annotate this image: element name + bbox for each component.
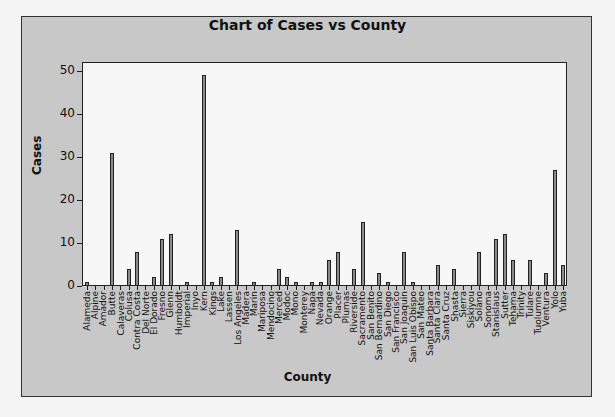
x-tick-mark bbox=[137, 286, 138, 290]
x-tick-mark bbox=[154, 286, 155, 290]
bar bbox=[336, 252, 340, 286]
bar bbox=[277, 269, 281, 286]
x-tick-mark bbox=[312, 286, 313, 290]
y-tick-label: 10 bbox=[45, 235, 75, 249]
y-tick-mark bbox=[77, 200, 82, 201]
x-axis-label: County bbox=[0, 370, 615, 384]
x-tick-mark bbox=[479, 286, 480, 290]
x-tick-mark bbox=[521, 286, 522, 290]
y-tick-label: 40 bbox=[45, 106, 75, 120]
x-tick-mark bbox=[254, 286, 255, 290]
bar bbox=[285, 277, 289, 286]
bar bbox=[235, 230, 239, 286]
bar bbox=[110, 153, 114, 286]
y-tick-mark bbox=[77, 286, 82, 287]
x-tick-mark bbox=[104, 286, 105, 290]
x-tick-mark bbox=[546, 286, 547, 290]
bar bbox=[561, 265, 565, 287]
bar bbox=[511, 260, 515, 286]
x-tick-mark bbox=[329, 286, 330, 290]
x-tick-mark bbox=[563, 286, 564, 290]
x-tick-mark bbox=[95, 286, 96, 290]
bar bbox=[202, 75, 206, 286]
x-tick-mark bbox=[538, 286, 539, 290]
bar bbox=[544, 273, 548, 286]
bar bbox=[377, 273, 381, 286]
x-tick-mark bbox=[221, 286, 222, 290]
x-tick-mark bbox=[379, 286, 380, 290]
x-tick-mark bbox=[212, 286, 213, 290]
x-tick-mark bbox=[471, 286, 472, 290]
x-tick-mark bbox=[354, 286, 355, 290]
x-tick-mark bbox=[388, 286, 389, 290]
bar bbox=[402, 252, 406, 286]
y-tick-mark bbox=[77, 157, 82, 158]
x-tick-mark bbox=[187, 286, 188, 290]
x-tick-mark bbox=[513, 286, 514, 290]
x-tick-mark bbox=[179, 286, 180, 290]
bar bbox=[553, 170, 557, 286]
x-tick-mark bbox=[346, 286, 347, 290]
x-tick-mark bbox=[120, 286, 121, 290]
x-tick-mark bbox=[196, 286, 197, 290]
x-tick-mark bbox=[145, 286, 146, 290]
x-tick-mark bbox=[363, 286, 364, 290]
x-tick-mark bbox=[129, 286, 130, 290]
bar bbox=[436, 265, 440, 287]
x-tick-mark bbox=[371, 286, 372, 290]
x-tick-mark bbox=[555, 286, 556, 290]
bar bbox=[494, 239, 498, 286]
x-tick-mark bbox=[421, 286, 422, 290]
x-tick-mark bbox=[496, 286, 497, 290]
bar bbox=[127, 269, 131, 286]
x-tick-mark bbox=[488, 286, 489, 290]
x-tick-mark bbox=[530, 286, 531, 290]
x-tick-label: Yuba bbox=[558, 291, 568, 312]
x-tick-mark bbox=[321, 286, 322, 290]
bar bbox=[361, 222, 365, 287]
y-tick-mark bbox=[77, 71, 82, 72]
y-tick-label: 0 bbox=[45, 278, 75, 292]
x-tick-mark bbox=[271, 286, 272, 290]
bar bbox=[219, 277, 223, 286]
x-tick-mark bbox=[87, 286, 88, 290]
chart-title: Chart of Cases vs County bbox=[0, 17, 615, 33]
x-tick-mark bbox=[304, 286, 305, 290]
x-tick-mark bbox=[429, 286, 430, 290]
bar bbox=[477, 252, 481, 286]
y-tick-mark bbox=[77, 243, 82, 244]
x-tick-mark bbox=[454, 286, 455, 290]
y-tick-mark bbox=[77, 114, 82, 115]
x-tick-mark bbox=[229, 286, 230, 290]
bar bbox=[135, 252, 139, 286]
x-tick-mark bbox=[279, 286, 280, 290]
x-tick-mark bbox=[404, 286, 405, 290]
bar bbox=[169, 234, 173, 286]
x-tick-mark bbox=[237, 286, 238, 290]
x-tick-mark bbox=[396, 286, 397, 290]
y-axis-label: Cases bbox=[30, 136, 44, 175]
x-tick-mark bbox=[463, 286, 464, 290]
x-tick-mark bbox=[262, 286, 263, 290]
bar bbox=[152, 277, 156, 286]
bar bbox=[160, 239, 164, 286]
x-tick-mark bbox=[438, 286, 439, 290]
bar bbox=[327, 260, 331, 286]
y-tick-label: 20 bbox=[45, 192, 75, 206]
bar bbox=[452, 269, 456, 286]
y-tick-label: 30 bbox=[45, 149, 75, 163]
x-tick-mark bbox=[446, 286, 447, 290]
x-tick-mark bbox=[171, 286, 172, 290]
x-tick-mark bbox=[296, 286, 297, 290]
x-tick-mark bbox=[112, 286, 113, 290]
y-tick-label: 50 bbox=[45, 63, 75, 77]
bar bbox=[352, 269, 356, 286]
bar bbox=[503, 234, 507, 286]
bar bbox=[528, 260, 532, 286]
x-tick-mark bbox=[246, 286, 247, 290]
x-tick-mark bbox=[505, 286, 506, 290]
x-tick-mark bbox=[287, 286, 288, 290]
x-tick-mark bbox=[413, 286, 414, 290]
x-tick-mark bbox=[338, 286, 339, 290]
x-tick-mark bbox=[204, 286, 205, 290]
